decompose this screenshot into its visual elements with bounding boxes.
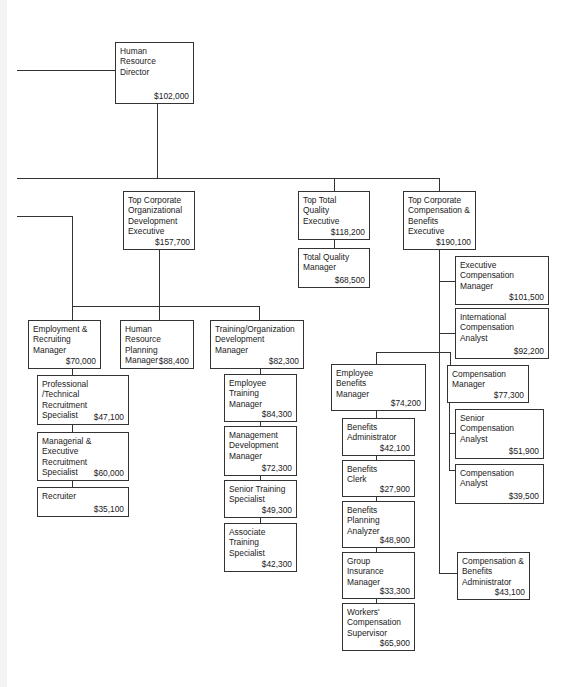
node-salary: $35,100 (94, 504, 124, 514)
node-prof-tech: Professional /Technical Recruitment Spec… (37, 375, 129, 425)
connector (449, 402, 450, 470)
node-salary: $60,000 (94, 468, 124, 478)
node-workers-comp: Workers' Compensation Supervisor $65,900 (342, 603, 415, 651)
connector (450, 352, 451, 365)
connector (259, 306, 260, 320)
node-benefits-clerk: Benefits Clerk $27,900 (342, 460, 415, 497)
node-top-comp: Top Corporate Compensation & Benefits Ex… (403, 191, 476, 250)
node-title: Training/Organization Development Manage… (215, 324, 299, 355)
node-salary: $82,300 (269, 356, 299, 366)
node-benefits-planning: Benefits Planning Analyzer $48,900 (342, 501, 415, 548)
node-emp-recruit-mgr: Employment & Recruiting Manager $70,000 (28, 320, 101, 369)
node-salary: $42,300 (262, 559, 292, 569)
connector (72, 216, 73, 320)
node-senior-comp: Senior Compensation Analyst $51,900 (455, 409, 544, 459)
node-salary: $102,000 (154, 91, 189, 101)
node-salary: $92,200 (514, 346, 544, 356)
node-salary: $74,200 (391, 398, 421, 408)
connector (376, 410, 377, 418)
node-title: Human Resource Director (120, 46, 189, 77)
node-comp-analyst: Compensation Analyst $39,500 (455, 464, 544, 504)
node-title: Executive Compensation Manager (460, 260, 544, 291)
node-title: Employee Benefits Manager (336, 368, 421, 399)
connector (72, 425, 73, 432)
connector (72, 306, 260, 307)
node-comp-benefits-admin: Compensation & Benefits Administrator $4… (457, 552, 530, 600)
connector (334, 240, 335, 248)
node-exec-comp-mgr: Executive Compensation Manager $101,500 (455, 256, 549, 305)
node-title: Management Development Manager (229, 430, 292, 461)
node-title: Associate Training Specialist (229, 527, 292, 558)
node-assoc-training: Associate Training Specialist $42,300 (224, 523, 297, 572)
node-salary: $43,100 (495, 587, 525, 597)
node-mgr-exec-recruit: Managerial & Executive Recruitment Speci… (37, 432, 129, 481)
connector (17, 216, 72, 217)
node-hr-planning-mgr: Human Resource Planning Manager $88,400 (120, 320, 194, 369)
node-mgmt-dev-mgr: Management Development Manager $72,300 (224, 426, 297, 476)
node-salary: $65,900 (380, 638, 410, 648)
node-group-insurance: Group Insurance Manager $33,300 (342, 552, 415, 599)
node-title: Employee Training Manager (229, 378, 292, 409)
node-salary: $77,300 (494, 390, 524, 400)
connector (159, 250, 160, 320)
node-salary: $190,100 (436, 237, 471, 247)
node-salary: $101,500 (509, 292, 544, 302)
node-salary: $39,500 (509, 491, 539, 501)
node-title: Compensation Analyst (460, 468, 539, 489)
node-salary: $70,000 (66, 356, 96, 366)
connector (439, 250, 440, 574)
connector (439, 573, 457, 574)
node-title: International Compensation Analyst (460, 312, 544, 343)
node-salary: $27,900 (380, 484, 410, 494)
node-title: Benefits Administrator (347, 422, 410, 443)
node-salary: $51,900 (509, 446, 539, 456)
node-title: Workers' Compensation Supervisor (347, 607, 410, 638)
node-salary: $72,300 (262, 463, 292, 473)
connector (17, 70, 115, 71)
connector (439, 333, 455, 334)
node-salary: $84,300 (262, 409, 292, 419)
node-senior-training: Senior Training Specialist $49,300 (224, 480, 297, 518)
node-top-quality: Top Total Quality Executive $118,200 (298, 191, 370, 240)
node-salary: $47,100 (94, 412, 124, 422)
node-title: Benefits Planning Analyzer (347, 505, 410, 536)
node-title: Compensation Manager (452, 369, 524, 390)
node-emp-training-mgr: Employee Training Manager $84,300 (224, 374, 297, 422)
node-title: Recruiter (42, 491, 124, 501)
node-title: Top Corporate Organizational Development… (128, 195, 190, 236)
node-title: Top Corporate Compensation & Benefits Ex… (408, 195, 471, 236)
node-title: Employment & Recruiting Manager (33, 324, 96, 355)
node-training-org-mgr: Training/Organization Development Manage… (210, 320, 304, 369)
node-top-org-dev: Top Corporate Organizational Development… (123, 191, 195, 250)
connector (334, 178, 335, 191)
node-emp-benefits-mgr: Employee Benefits Manager $74,200 (331, 364, 426, 411)
node-hr-director: Human Resource Director $102,000 (115, 42, 194, 104)
connector (376, 352, 450, 353)
node-salary: $48,900 (380, 535, 410, 545)
node-intl-comp: International Compensation Analyst $92,2… (455, 308, 549, 359)
connector (439, 178, 440, 191)
connector (376, 352, 377, 364)
connector (439, 281, 455, 282)
node-salary: $118,200 (331, 227, 365, 237)
page-edge (0, 0, 7, 687)
connector (157, 103, 158, 178)
node-salary: $157,700 (155, 237, 190, 247)
node-title: Senior Compensation Analyst (460, 413, 539, 444)
node-salary: $42,100 (380, 443, 410, 453)
node-comp-mgr: Compensation Manager $77,300 (447, 365, 529, 403)
connector (17, 178, 440, 179)
node-title: Top Total Quality Executive (303, 195, 365, 226)
node-title: Group Insurance Manager (347, 556, 410, 587)
node-salary: $33,300 (380, 586, 410, 596)
node-title: Total Quality Manager (303, 252, 365, 273)
node-quality-mgr: Total Quality Manager $68,500 (298, 248, 370, 288)
node-title: Benefits Clerk (347, 464, 410, 485)
node-title: Senior Training Specialist (229, 484, 292, 505)
node-salary: $49,300 (262, 505, 292, 515)
node-salary: $68,500 (335, 275, 365, 285)
node-title: Compensation & Benefits Administrator (462, 556, 525, 587)
node-salary: $88,400 (159, 356, 189, 366)
node-recruiter: Recruiter $35,100 (37, 487, 129, 517)
node-benefits-admin: Benefits Administrator $42,100 (342, 418, 415, 456)
